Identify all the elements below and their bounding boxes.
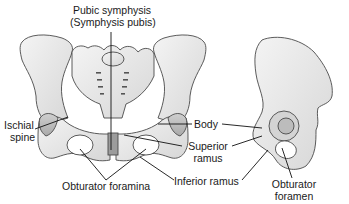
label-inferior-ramus: Inferior ramus	[174, 175, 239, 187]
label-obturator-foramen-line2: foramen	[268, 190, 320, 202]
leader-inferior-ramus-lateral	[242, 150, 268, 180]
label-pubic-symphysis: Pubic symphysis (Symphysis pubis)	[70, 4, 154, 28]
label-superior-ramus: Superior ramus	[184, 140, 232, 164]
right-ilium	[153, 35, 205, 124]
label-obturator-foramina: Obturator foramina	[62, 180, 150, 192]
label-obturator-foramen: Obturator foramen	[268, 178, 320, 202]
label-pubic-symphysis-line2: (Symphysis pubis)	[70, 16, 154, 28]
label-obturator-foramen-line1: Obturator	[268, 178, 320, 190]
label-ischial-spine: Ischial spine	[4, 119, 35, 143]
left-ilium	[20, 35, 72, 124]
right-obturator-foramen	[133, 135, 159, 155]
sacral-promontory	[102, 52, 124, 66]
left-obturator-foramen	[67, 135, 93, 155]
pubic-symphysis-disc	[108, 133, 118, 155]
label-superior-ramus-line1: Superior	[184, 140, 232, 152]
pelvis-diagram	[0, 0, 349, 204]
label-body: Body	[194, 118, 218, 130]
label-pubic-symphysis-line1: Pubic symphysis	[70, 4, 154, 16]
lateral-hip-bone	[253, 37, 332, 169]
leader-inferior-ramus	[140, 157, 174, 180]
label-superior-ramus-line2: ramus	[184, 152, 232, 164]
acetabular-fossa	[278, 118, 294, 134]
anterior-pelvis	[20, 35, 206, 161]
label-ischial-spine-line2: spine	[4, 131, 35, 143]
label-ischial-spine-line1: Ischial	[4, 119, 35, 131]
